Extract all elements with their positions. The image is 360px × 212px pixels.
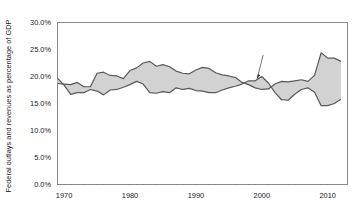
plot-area [57, 22, 348, 185]
axes-frame [58, 23, 348, 185]
chart-svg [57, 22, 348, 185]
chart-figure: Federal outlays and revenues as percenta… [0, 0, 360, 212]
